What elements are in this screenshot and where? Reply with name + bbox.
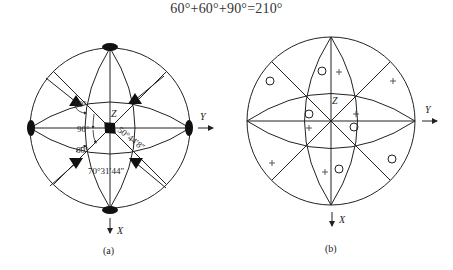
axis-label-x-a: X [116,225,124,236]
angle-90: 90° [77,124,90,134]
caption-a: (a) [103,245,114,257]
angle-60-lower: 60° [76,145,89,155]
figure-b [247,37,415,205]
angle-bottom: 70°31′44″ [88,166,125,176]
open-circle-icon [266,77,274,85]
open-circle-icon [335,165,343,173]
axis-label-y-b: Y [425,104,432,115]
caption-b: (b) [325,243,337,255]
pole-bottom-icon [102,206,118,214]
axis-label-z-a: Z [111,108,117,119]
pole-right-icon [185,120,193,136]
pole-left-icon [27,120,35,136]
plus-icon [390,78,396,84]
stereographic-projections: 60° 90° 60° 70°31′44″ 50°44′8″ Z Y X (a) [0,0,453,270]
open-circle-icon [350,123,358,131]
axis-label-x-b: X [338,214,346,225]
plus-icon [269,160,275,166]
plus-icon [336,69,342,75]
axis-label-z-b: Z [332,95,338,106]
open-circle-icon [388,155,396,163]
open-circle-icon [305,110,313,118]
pole-top-icon [102,43,118,51]
plus-icon [322,169,328,175]
angle-60-upper: 60° [74,99,87,109]
plus-icon [353,111,359,117]
open-circle-icon [318,67,326,75]
plus-icon [306,125,312,131]
axis-label-y-a: Y [200,111,207,122]
